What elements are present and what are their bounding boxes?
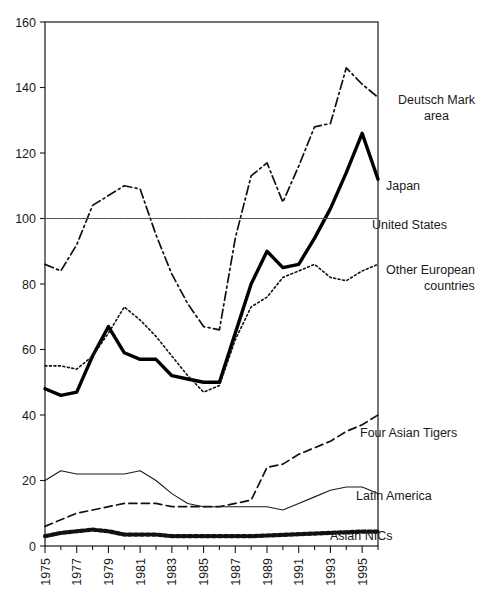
x-tick-label: 1983 bbox=[165, 558, 179, 586]
y-tick-label: 100 bbox=[15, 212, 36, 226]
y-tick-label: 60 bbox=[22, 343, 36, 357]
x-tick-label: 1993 bbox=[324, 558, 338, 586]
series-label-united-states: United States bbox=[372, 218, 447, 232]
y-axis-ticks: 020406080100120140160 bbox=[15, 16, 45, 554]
y-tick-label: 40 bbox=[22, 409, 36, 423]
series-label-other-european-countries: countries bbox=[424, 279, 475, 293]
x-tick-label: 1975 bbox=[39, 558, 53, 586]
series-line-four-asian-tigers bbox=[45, 415, 378, 526]
economic-index-line-chart: 020406080100120140160 197519771979198119… bbox=[0, 0, 498, 604]
series-label-japan: Japan bbox=[386, 179, 420, 193]
x-tick-label: 1987 bbox=[229, 558, 243, 586]
x-tick-label: 1981 bbox=[134, 558, 148, 586]
x-tick-label: 1991 bbox=[292, 558, 306, 586]
plot-frame-group bbox=[45, 22, 378, 546]
x-axis-ticks: 1975197719791981198319851987198919911993… bbox=[39, 546, 379, 586]
series-label-latin-america: Latin America bbox=[356, 489, 432, 503]
series-label-deutsch-mark-area: Deutsch Mark bbox=[398, 93, 476, 107]
plot-frame bbox=[45, 22, 378, 546]
x-tick-label: 1989 bbox=[261, 558, 275, 586]
series-line-asian-nics bbox=[45, 530, 378, 537]
series-line-japan bbox=[45, 133, 378, 395]
y-tick-label: 80 bbox=[22, 278, 36, 292]
x-tick-label: 1977 bbox=[70, 558, 84, 586]
series-line-other-european-countries bbox=[45, 264, 378, 392]
x-tick-label: 1985 bbox=[197, 558, 211, 586]
series-label-other-european-countries: Other European bbox=[386, 263, 475, 277]
series-label-asian-nics: Asian NICs bbox=[330, 529, 393, 543]
series-line-latin-america bbox=[45, 471, 378, 510]
x-tick-label: 1979 bbox=[102, 558, 116, 586]
y-tick-label: 20 bbox=[22, 474, 36, 488]
y-tick-label: 160 bbox=[15, 16, 36, 30]
series-label-four-asian-tigers: Four Asian Tigers bbox=[360, 426, 457, 440]
data-series-group bbox=[45, 68, 378, 536]
series-line-deutsch-mark-area bbox=[45, 68, 378, 330]
y-tick-label: 0 bbox=[29, 540, 36, 554]
y-tick-label: 120 bbox=[15, 147, 36, 161]
y-tick-label: 140 bbox=[15, 81, 36, 95]
series-label-deutsch-mark-area: area bbox=[424, 109, 449, 123]
x-tick-label: 1995 bbox=[356, 558, 370, 586]
chart-container: 020406080100120140160 197519771979198119… bbox=[0, 0, 498, 604]
